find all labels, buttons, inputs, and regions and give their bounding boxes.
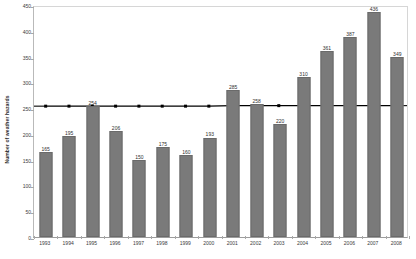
bar-1995 [86, 106, 99, 237]
x-tick-mark [222, 236, 223, 239]
bar-value-label-1999: 160 [182, 150, 190, 155]
bar-group-2001: 285 [222, 7, 245, 237]
x-tick-mark [245, 236, 246, 239]
x-axis-tick-1997: 1997 [133, 241, 144, 246]
x-axis-tick-2007: 2007 [367, 241, 378, 246]
x-axis-tick-2006: 2006 [344, 241, 355, 246]
x-tick-mark [339, 236, 340, 239]
bar-group-2000: 193 [198, 7, 221, 237]
y-axis-tick-300: 300 [23, 81, 31, 86]
x-axis-tick-1995: 1995 [86, 241, 97, 246]
bar-2001 [227, 90, 240, 237]
x-tick-mark [292, 236, 293, 239]
x-tick-mark [34, 236, 35, 239]
x-tick-mark [175, 236, 176, 239]
bar-value-label-2001: 285 [229, 85, 237, 90]
x-axis-tick-1996: 1996 [109, 241, 120, 246]
y-axis-tick-400: 400 [23, 29, 31, 34]
bar-group-2007: 436 [362, 7, 385, 237]
x-tick-mark [386, 236, 387, 239]
bar-value-label-2002: 258 [252, 99, 260, 104]
bar-group-1999: 160 [175, 7, 198, 237]
bar-value-label-2006: 387 [346, 32, 354, 37]
x-axis-tick-2008: 2008 [391, 241, 402, 246]
bar-1997 [133, 160, 146, 237]
bar-value-label-2004: 310 [299, 72, 307, 77]
plot-inner: 1651952542061501751601932852582203103613… [34, 7, 407, 237]
y-axis-tick-350: 350 [23, 55, 31, 60]
x-tick-mark [409, 236, 410, 239]
x-tick-mark [268, 236, 269, 239]
y-axis-tick-150: 150 [23, 158, 31, 163]
bar-2006 [344, 37, 357, 237]
bar-group-2005: 361 [315, 7, 338, 237]
bar-value-label-2008: 349 [393, 52, 401, 57]
weather-hazards-bar-chart: Number of weather hazards 05010015020025… [0, 0, 416, 259]
x-axis-tick-labels: 1993199419951996199719981999200020012002… [33, 241, 408, 253]
bar-value-label-2000: 193 [206, 132, 214, 137]
bar-1996 [110, 131, 123, 237]
y-tick-mark [31, 239, 34, 240]
bar-1998 [156, 147, 169, 237]
y-axis-tick-labels: 050100150200250300350400450 [14, 6, 32, 238]
bar-group-1994: 195 [57, 7, 80, 237]
bar-group-2008: 349 [386, 7, 409, 237]
bar-group-1995: 254 [81, 7, 104, 237]
bar-2007 [367, 12, 380, 237]
bar-group-2003: 220 [268, 7, 291, 237]
x-axis-tick-2003: 2003 [274, 241, 285, 246]
bar-2008 [391, 57, 404, 237]
x-axis-tick-2002: 2002 [250, 241, 261, 246]
bar-value-label-1997: 150 [135, 155, 143, 160]
bar-2005 [320, 51, 333, 237]
bar-group-1997: 150 [128, 7, 151, 237]
x-tick-mark [57, 236, 58, 239]
bar-group-1996: 206 [104, 7, 127, 237]
bar-1993 [39, 152, 52, 237]
bar-value-label-1995: 254 [88, 101, 96, 106]
bar-value-label-1996: 206 [112, 126, 120, 131]
plot-area: 1651952542061501751601932852582203103613… [33, 6, 408, 238]
bar-value-label-1993: 165 [42, 147, 50, 152]
y-axis-tick-250: 250 [23, 107, 31, 112]
bar-value-label-2003: 220 [276, 119, 284, 124]
x-tick-mark [151, 236, 152, 239]
y-axis-tick-450: 450 [23, 4, 31, 9]
y-axis-title-label: Number of weather hazards [5, 95, 10, 163]
x-axis-tick-1999: 1999 [180, 241, 191, 246]
x-axis-tick-2004: 2004 [297, 241, 308, 246]
bar-group-2004: 310 [292, 7, 315, 237]
bar-2000 [203, 138, 216, 238]
y-axis-tick-100: 100 [23, 184, 31, 189]
bar-2004 [297, 77, 310, 237]
bar-value-label-1994: 195 [65, 131, 73, 136]
bar-1994 [63, 136, 76, 237]
bar-value-label-1998: 175 [159, 142, 167, 147]
x-tick-mark [362, 236, 363, 239]
x-axis-tick-2001: 2001 [227, 241, 238, 246]
y-axis-title: Number of weather hazards [0, 0, 14, 259]
bar-2002 [250, 104, 263, 237]
bar-value-label-2007: 436 [370, 7, 378, 12]
x-axis-tick-2000: 2000 [203, 241, 214, 246]
bar-2003 [274, 124, 287, 237]
x-axis-tick-1998: 1998 [156, 241, 167, 246]
bar-group-1993: 165 [34, 7, 57, 237]
x-tick-mark [198, 236, 199, 239]
x-axis-tick-1994: 1994 [63, 241, 74, 246]
bar-group-2006: 387 [339, 7, 362, 237]
bar-1999 [180, 155, 193, 237]
x-tick-mark [104, 236, 105, 239]
x-tick-mark [128, 236, 129, 239]
x-tick-mark [315, 236, 316, 239]
bar-group-2002: 258 [245, 7, 268, 237]
bar-group-1998: 175 [151, 7, 174, 237]
x-tick-mark [81, 236, 82, 239]
y-axis-tick-200: 200 [23, 132, 31, 137]
x-axis-tick-1993: 1993 [39, 241, 50, 246]
bar-value-label-2005: 361 [323, 46, 331, 51]
x-axis-tick-2005: 2005 [320, 241, 331, 246]
